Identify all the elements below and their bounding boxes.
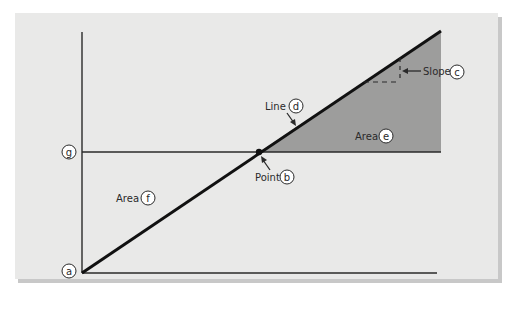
area-e-label: Area [355,131,378,142]
slope-label: Slope [423,66,451,77]
line-label: Line [265,101,286,112]
marker-e: e [383,131,389,142]
line-area-diagram: Slope c Line d Area e Point b Area f g a [0,0,529,316]
marker-g: g [66,147,72,158]
point-label: Point [255,172,280,183]
point-b-dot [256,149,262,155]
marker-c: c [454,67,460,78]
marker-a: a [66,266,72,277]
marker-f: f [146,193,150,204]
area-f-label: Area [116,193,139,204]
marker-b: b [284,172,290,183]
marker-d: d [293,101,299,112]
